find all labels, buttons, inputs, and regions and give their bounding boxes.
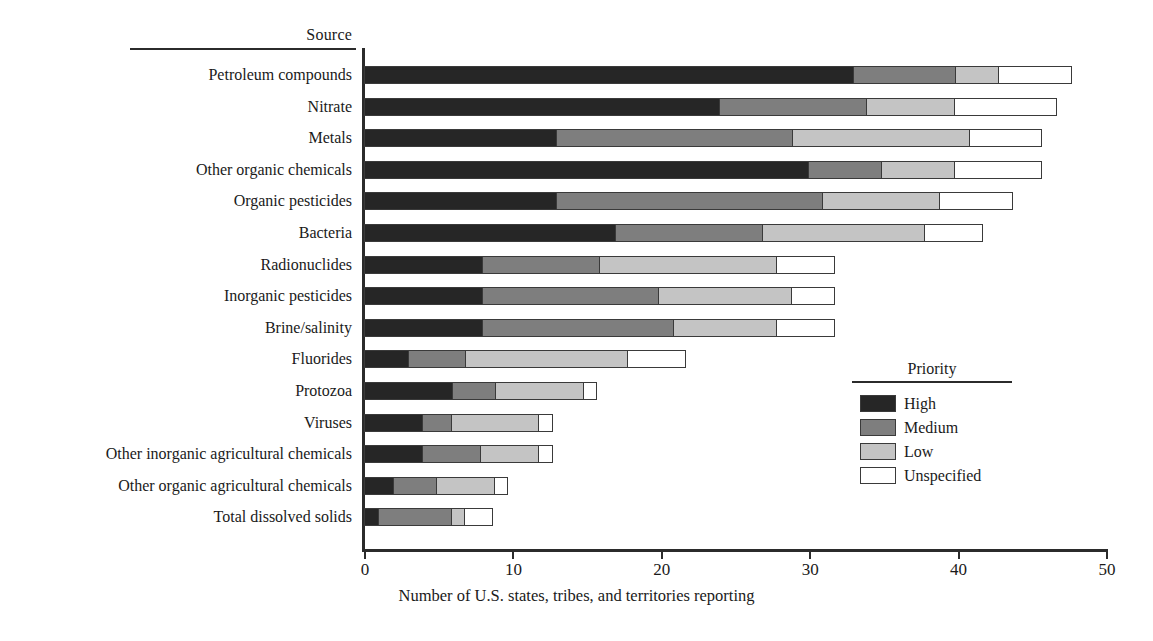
bar-segment-high	[364, 414, 423, 432]
bar-segment-medium	[556, 129, 793, 147]
bar-row-label: Brine/salinity	[0, 319, 352, 337]
stacked-bar	[364, 287, 833, 305]
stacked-bar	[364, 66, 1071, 84]
stacked-bar	[364, 414, 551, 432]
bar-segment-high	[364, 445, 423, 463]
bar-segment-unspecified	[538, 414, 553, 432]
legend-label: Medium	[904, 419, 958, 436]
bar-segment-unspecified	[775, 319, 834, 337]
bar-segment-low	[480, 445, 539, 463]
legend-swatch-unspecified-icon	[860, 467, 896, 484]
x-axis-title: Number of U.S. states, tribes, and terri…	[0, 586, 1153, 606]
bar-segment-unspecified	[582, 382, 597, 400]
bar-segment-unspecified	[790, 287, 835, 305]
bar-segment-unspecified	[538, 445, 553, 463]
stacked-bar	[364, 508, 492, 526]
stacked-bar	[364, 256, 833, 274]
legend-item-low[interactable]: Low	[860, 439, 1062, 463]
bar-row-label: Protozoa	[0, 382, 352, 400]
bar-segment-low	[435, 477, 494, 495]
legend: Priority HighMediumLowUnspecified	[852, 360, 1062, 487]
bar-segment-unspecified	[775, 256, 834, 274]
bar-segment-low	[450, 414, 539, 432]
bar-segment-low	[599, 256, 777, 274]
stacked-bar	[364, 445, 551, 463]
bar-segment-unspecified	[464, 508, 494, 526]
bar-row-label: Fluorides	[0, 350, 352, 368]
legend-item-high[interactable]: High	[860, 391, 1062, 415]
bar-segment-unspecified	[953, 161, 1042, 179]
legend-swatch-low-icon	[860, 443, 896, 460]
bar-segment-low	[955, 66, 1000, 84]
bar-segment-high	[364, 287, 483, 305]
bar-row-label: Petroleum compounds	[0, 66, 352, 84]
bar-segment-unspecified	[627, 350, 686, 368]
bar-segment-low	[658, 287, 792, 305]
stacked-bar	[364, 319, 833, 337]
bar-segment-medium	[808, 161, 882, 179]
bar-segment-medium	[481, 287, 659, 305]
x-tick	[958, 551, 960, 559]
bar-segment-unspecified	[953, 98, 1057, 116]
stacked-bar	[364, 350, 685, 368]
bar-row-label: Radionuclides	[0, 256, 352, 274]
bar-row-label: Nitrate	[0, 98, 352, 116]
bar-segment-low	[673, 319, 777, 337]
bar-segment-low	[866, 98, 955, 116]
stacked-bar	[364, 161, 1041, 179]
bar-row-label: Bacteria	[0, 224, 352, 242]
bar-row-label: Organic pesticides	[0, 192, 352, 210]
legend-swatch-high-icon	[860, 395, 896, 412]
bar-segment-medium	[422, 414, 452, 432]
bar-segment-high	[364, 129, 557, 147]
x-tick-label: 50	[1077, 560, 1137, 580]
stacked-bar	[364, 129, 1041, 147]
bar-segment-medium	[377, 508, 451, 526]
bar-segment-high	[364, 319, 483, 337]
legend-item-medium[interactable]: Medium	[860, 415, 1062, 439]
bar-segment-unspecified	[493, 477, 508, 495]
legend-label: High	[904, 395, 936, 412]
bar-segment-high	[364, 66, 854, 84]
bar-row-label: Viruses	[0, 414, 352, 432]
bar-segment-unspecified	[998, 66, 1072, 84]
x-tick	[661, 551, 663, 559]
bar-row-label: Other organic agricultural chemicals	[0, 477, 352, 495]
bar-segment-low	[881, 161, 955, 179]
legend-swatch-medium-icon	[860, 419, 896, 436]
stacked-bar	[364, 477, 507, 495]
legend-label: Low	[904, 443, 933, 460]
bar-row-label: Inorganic pesticides	[0, 287, 352, 305]
bar-segment-high	[364, 161, 809, 179]
x-tick-label: 30	[780, 560, 840, 580]
x-tick	[512, 551, 514, 559]
stacked-bar	[364, 98, 1056, 116]
legend-rule	[852, 381, 1012, 383]
bar-segment-low	[465, 350, 628, 368]
bar-segment-high	[364, 256, 483, 274]
stacked-bar	[364, 192, 1011, 210]
source-header-rule	[130, 48, 356, 50]
legend-items: HighMediumLowUnspecified	[852, 391, 1062, 487]
bar-segment-low	[762, 224, 925, 242]
x-tick	[364, 551, 366, 559]
bar-segment-low	[450, 508, 465, 526]
bar-segment-high	[364, 382, 453, 400]
bar-segment-medium	[422, 445, 481, 463]
bar-segment-unspecified	[939, 192, 1013, 210]
bar-segment-medium	[615, 224, 763, 242]
bar-segment-low	[821, 192, 940, 210]
x-axis-line	[362, 549, 1108, 552]
x-tick-label: 40	[929, 560, 989, 580]
x-tick-label: 20	[632, 560, 692, 580]
bar-segment-high	[364, 477, 394, 495]
bar-segment-low	[792, 129, 970, 147]
stacked-bar-chart: Source Petroleum compoundsNitrateMetalsO…	[0, 0, 1153, 641]
bar-segment-medium	[481, 256, 600, 274]
x-tick-label: 10	[483, 560, 543, 580]
bar-segment-unspecified	[924, 224, 983, 242]
bar-segment-medium	[452, 382, 497, 400]
legend-item-unspecified[interactable]: Unspecified	[860, 463, 1062, 487]
bar-segment-low	[495, 382, 584, 400]
bar-segment-medium	[556, 192, 823, 210]
